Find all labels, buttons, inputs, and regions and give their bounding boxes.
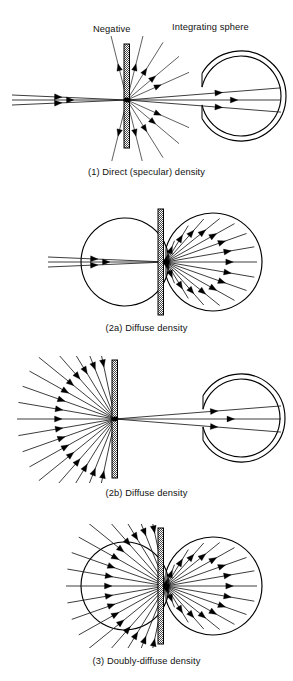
scattering-node [112, 417, 119, 422]
ray-arrowhead [66, 452, 74, 459]
scattering-point [163, 584, 170, 589]
ray-arrowhead [223, 573, 231, 579]
ray-arrowhead [116, 620, 124, 627]
ray-arrowhead [227, 416, 235, 422]
transmitted-ray [166, 543, 220, 586]
ray-arrowhead [55, 416, 63, 422]
ray-arrowhead [226, 259, 234, 265]
ray-arrowhead [198, 230, 206, 237]
sphere-outer-wall [203, 374, 285, 462]
incoming-rays [12, 94, 127, 106]
ray-arrowhead [210, 424, 218, 430]
ray-arrowhead [140, 528, 146, 536]
caption-panel-1: (1) Direct (specular) density [0, 166, 293, 178]
ray-arrowhead [209, 608, 217, 614]
ray-arrowhead [154, 110, 162, 115]
negative-plate [124, 44, 130, 148]
transmitted-rays [163, 219, 257, 306]
ray-arrowhead [141, 68, 147, 75]
ray-arrowhead [107, 604, 115, 610]
panel-doubly-diffuse-density [0, 524, 293, 648]
diagram-direct-specular-density [0, 36, 293, 161]
ray-arrowhead [105, 583, 113, 589]
ray-arrowhead [148, 117, 155, 124]
ray-arrowhead [132, 129, 137, 136]
scattering-node [163, 584, 170, 589]
ray-arrowhead [198, 287, 206, 294]
ray-arrowhead [215, 104, 223, 110]
ray-arrowhead [209, 558, 217, 564]
transmitted-ray [166, 586, 220, 629]
ray-arrowhead [117, 129, 122, 136]
ray-arrowhead [223, 249, 231, 255]
ray-arrowhead [176, 605, 182, 613]
transmitted-ray [166, 262, 220, 305]
incoming-ray [88, 524, 166, 586]
label-integrating-sphere: Integrating sphere [172, 22, 249, 33]
diagram-diffuse-density-2b [0, 356, 293, 483]
scattering-node [163, 260, 170, 265]
ray-arrowhead [111, 612, 119, 618]
ray-arrowhead [223, 269, 231, 275]
ray-arrowhead [105, 573, 113, 579]
transmitted-rays [127, 88, 281, 112]
scattering-point [112, 417, 119, 422]
ray-arrowhead [90, 468, 96, 476]
transmitted-rays [115, 406, 281, 432]
ray-arrowhead [209, 284, 217, 290]
panel-diffuse-density-2a [0, 205, 293, 320]
ray-arrowhead [61, 387, 69, 393]
panel-direct-specular-density [0, 36, 293, 161]
panel-diffuse-density-2b [0, 356, 293, 483]
ray-arrowhead [100, 471, 106, 479]
caption-panel-3: (3) Doubly-diffuse density [0, 655, 293, 667]
ray-arrowhead [223, 593, 231, 599]
ray-arrowhead [54, 94, 62, 100]
integrating-sphere [203, 374, 285, 462]
ray-arrowhead [140, 636, 146, 644]
ray-arrowhead [90, 262, 98, 268]
transmitted-ray [166, 226, 188, 262]
transmitted-ray [166, 219, 220, 262]
caption-panel-2b: (2b) Diffuse density [0, 487, 293, 499]
ray-arrowhead [176, 559, 182, 567]
ray-arrowhead [218, 241, 226, 247]
ray-arrowhead [132, 64, 137, 71]
transmitted-ray [115, 419, 281, 432]
integrating-sphere [202, 51, 286, 141]
ray-arrowhead [210, 408, 218, 414]
ray-arrowhead [148, 76, 155, 83]
ray-arrowhead [55, 406, 63, 412]
ray-arrowhead [131, 532, 137, 540]
ray-arrowhead [218, 602, 226, 608]
ray-arrowhead [176, 281, 182, 289]
ray-arrowhead [105, 593, 113, 599]
ray-arrowhead [90, 256, 98, 262]
ray-arrowhead [54, 100, 62, 106]
incoming-ray [88, 586, 166, 648]
ray-arrowhead [66, 379, 74, 386]
ray-arrowhead [226, 583, 234, 589]
ray-arrowhead [154, 85, 162, 90]
ray-arrowhead [81, 464, 87, 472]
ray-arrowhead [55, 426, 63, 432]
ray-arrowhead [111, 553, 119, 559]
transmitted-ray [166, 586, 188, 622]
transmitted-ray [166, 550, 188, 586]
ray-arrowhead [150, 525, 156, 533]
ray-arrowhead [131, 632, 137, 640]
sphere-outer-wall [202, 51, 286, 141]
ray-arrowhead [100, 359, 106, 367]
transmitted-ray [166, 262, 188, 298]
ray-arrowhead [117, 64, 122, 71]
incoming-ray [64, 419, 115, 483]
ray-arrowhead [61, 445, 69, 451]
sphere-inner-wall [202, 56, 281, 136]
sphere-inner-wall [203, 379, 280, 457]
ray-arrowhead [150, 639, 156, 647]
negative-plate-body [124, 44, 130, 148]
ray-arrowhead [57, 396, 65, 402]
ray-arrowhead [230, 97, 238, 103]
label-negative: Negative [93, 24, 131, 35]
ray-arrowhead [215, 90, 223, 96]
